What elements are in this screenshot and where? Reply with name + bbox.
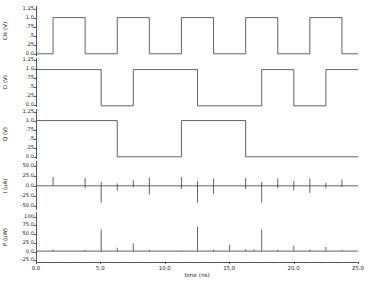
x-tick-mark	[358, 262, 359, 264]
panel-clk: 0.0.25.5.751.01.25Clk (V)	[0, 6, 368, 56]
x-axis-label: time (ns)	[36, 272, 358, 278]
x-tick-mark	[229, 262, 230, 264]
x-tick-mark	[294, 262, 295, 264]
x-minor-tick	[197, 262, 198, 263]
x-tick-label: 20.0	[288, 265, 300, 271]
trace-q	[37, 109, 358, 159]
x-minor-tick	[261, 262, 262, 263]
trace-d	[37, 58, 358, 108]
x-minor-tick	[310, 262, 311, 263]
y-axis-label-current: I (uA)	[2, 161, 8, 211]
x-minor-tick	[68, 262, 69, 263]
x-tick-mark	[165, 262, 166, 264]
y-axis-label-power: P (uW)	[2, 212, 8, 262]
plot-area-q	[36, 109, 358, 159]
plot-area-current	[36, 161, 358, 211]
x-tick-label: 0.0	[32, 265, 41, 271]
x-tick-label: 10.0	[159, 265, 171, 271]
panel-q: 0.0.25.5.751.01.25Q (V)	[0, 109, 368, 159]
trace-clk	[37, 6, 358, 56]
trace-power	[37, 212, 358, 262]
series-D	[37, 69, 358, 105]
x-minor-tick	[245, 262, 246, 263]
x-tick-mark	[36, 262, 37, 264]
x-axis: 0.05.010.015.020.025.0	[36, 262, 358, 263]
x-tick-label: 5.0	[96, 265, 105, 271]
plot-area-power	[36, 212, 358, 262]
series-Q	[37, 121, 358, 157]
x-minor-tick	[149, 262, 150, 263]
x-tick-label: 25.0	[352, 265, 364, 271]
x-minor-tick	[117, 262, 118, 263]
x-tick-mark	[100, 262, 101, 264]
x-minor-tick	[342, 262, 343, 263]
x-minor-tick	[133, 262, 134, 263]
x-minor-tick	[84, 262, 85, 263]
x-minor-tick	[326, 262, 327, 263]
trace-current	[37, 161, 358, 211]
x-minor-tick	[278, 262, 279, 263]
x-minor-tick	[213, 262, 214, 263]
panel-current: -50.0-25.00.025.050.0I (uA)	[0, 161, 368, 211]
panel-d: 0.0.25.5.751.01.25D (V)	[0, 58, 368, 108]
waveform-figure: 0.0.25.5.751.01.25Clk (V)0.0.25.5.751.01…	[0, 0, 368, 283]
y-axis-label-clk: Clk (V)	[2, 6, 8, 56]
series-Clk	[37, 18, 358, 54]
x-minor-tick	[52, 262, 53, 263]
plot-area-d	[36, 58, 358, 108]
plot-area-clk	[36, 6, 358, 56]
y-axis-label-q: Q (V)	[2, 109, 8, 159]
panel-power: -25.00.025.050.075.0100P (uW)	[0, 212, 368, 262]
x-minor-tick	[181, 262, 182, 263]
x-tick-label: 15.0	[223, 265, 235, 271]
y-axis-label-d: D (V)	[2, 58, 8, 108]
